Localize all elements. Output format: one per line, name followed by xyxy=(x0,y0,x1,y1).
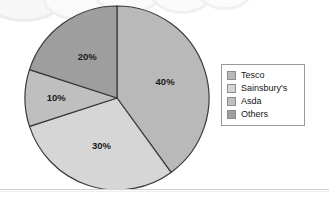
pie-slice-value-label: 40% xyxy=(156,76,176,87)
legend-swatch-icon xyxy=(227,110,236,119)
legend-item-tesco[interactable]: Tesco xyxy=(227,69,299,82)
pie-slice-value-label: 30% xyxy=(92,140,112,151)
pie-chart-screenshot: 40%30%10%20% Tesco Sainsbury's Asda Othe… xyxy=(0,0,329,203)
legend-item-label: Sainsbury's xyxy=(241,82,287,95)
legend-swatch-icon xyxy=(227,97,236,106)
bottom-divider-secondary xyxy=(0,191,329,192)
legend-item-label: Asda xyxy=(241,95,262,108)
legend-item-label: Others xyxy=(241,108,268,121)
legend-swatch-icon xyxy=(227,71,236,80)
bottom-divider xyxy=(0,189,329,190)
pie-slice-value-label: 10% xyxy=(47,92,67,103)
pie-slice-value-label: 20% xyxy=(78,51,98,62)
legend-item-sainsburys[interactable]: Sainsbury's xyxy=(227,82,299,95)
legend-item-label: Tesco xyxy=(241,69,265,82)
chart-legend: Tesco Sainsbury's Asda Others xyxy=(221,64,305,126)
legend-item-others[interactable]: Others xyxy=(227,108,299,121)
pie-chart-svg: 40%30%10%20% xyxy=(0,0,215,190)
legend-item-asda[interactable]: Asda xyxy=(227,95,299,108)
legend-swatch-icon xyxy=(227,84,236,93)
pie-chart: 40%30%10%20% xyxy=(0,0,215,190)
